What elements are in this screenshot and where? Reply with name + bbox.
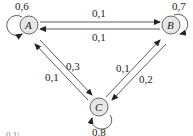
edge-c-to-b	[106, 40, 160, 97]
self-loop-a-label: 0,6	[15, 0, 29, 12]
svg-text:B: B	[167, 19, 174, 31]
edge-c-to-a-label: 0,1	[45, 71, 59, 83]
clipped-fragment-text: 0,1\	[6, 130, 20, 136]
edge-b-to-a-label: 0,1	[92, 31, 106, 43]
edge-c-to-b-label: 0,1	[116, 62, 130, 74]
node-a: A	[20, 16, 38, 34]
svg-text:C: C	[95, 101, 103, 113]
edge-a-to-b-label: 0,1	[92, 7, 106, 19]
node-b: B	[162, 16, 180, 34]
edge-b-to-c-label: 0,2	[139, 73, 153, 85]
self-loop-c-label: 0,8	[92, 126, 106, 136]
markov-chain-diagram: 0,1 0,1 0,1 0,3 0,1 0,2 0,6 0,7 0,8 A B …	[0, 0, 193, 136]
self-loop-b-label: 0,7	[172, 0, 186, 12]
svg-text:A: A	[24, 19, 32, 31]
edge-a-to-c-label: 0,3	[66, 60, 80, 72]
node-c: C	[90, 98, 108, 116]
edge-c-to-a	[35, 44, 88, 100]
